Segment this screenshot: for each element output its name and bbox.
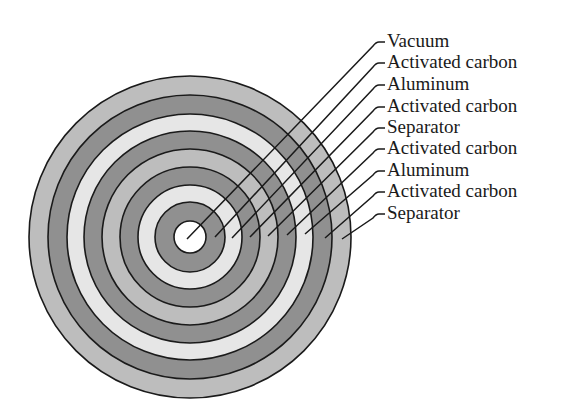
concentric-rings bbox=[29, 76, 351, 398]
label-separator-2: Separator bbox=[387, 203, 460, 223]
label-activated-carbon-2: Activated carbon bbox=[387, 96, 517, 116]
ring-vacuum bbox=[174, 221, 206, 253]
label-separator-1: Separator bbox=[387, 117, 460, 137]
label-vacuum: Vacuum bbox=[387, 31, 449, 51]
label-aluminum-2: Aluminum bbox=[387, 160, 469, 180]
label-activated-carbon-3: Activated carbon bbox=[387, 138, 517, 158]
label-aluminum-1: Aluminum bbox=[387, 74, 469, 94]
label-activated-carbon-4: Activated carbon bbox=[387, 181, 517, 201]
capacitor-diagram: Vacuum Activated carbon Aluminum Activat… bbox=[0, 0, 562, 417]
label-activated-carbon-1: Activated carbon bbox=[387, 52, 517, 72]
